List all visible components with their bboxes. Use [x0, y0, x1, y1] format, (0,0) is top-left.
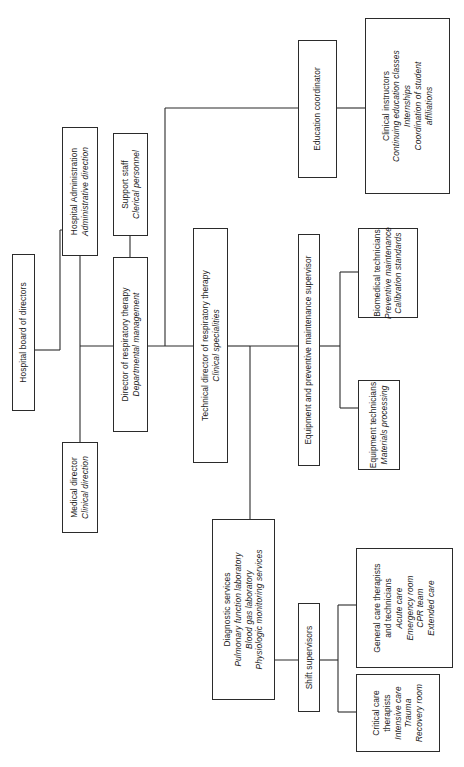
node-equipment-technicians[interactable]: Equipment technicians Materials processi… [358, 380, 400, 470]
node-label: Hospital Administration Administrative d… [69, 143, 91, 240]
node-label: Education coordinator [312, 63, 323, 155]
node-equipment-supervisor[interactable]: Equipment and preventive maintenance sup… [298, 234, 320, 466]
node-label: Technical director of respiratory therap… [200, 266, 222, 425]
node-hospital-administration[interactable]: Hospital Administration Administrative d… [62, 127, 98, 256]
node-label: Critical care therapists Intensive care … [371, 680, 425, 746]
node-support-staff[interactable]: Support staff Clerical personnel [113, 133, 148, 236]
node-label: Clinical instructors Continuing educatio… [381, 46, 435, 166]
node-medical-director[interactable]: Medical director Clinical direction [62, 442, 98, 533]
node-label: General care therapists and technicians … [372, 559, 437, 656]
node-critical-care-therapists[interactable]: Critical care therapists Intensive care … [356, 674, 440, 752]
node-label: Diagnostic services Pulmonary function l… [222, 546, 265, 674]
node-label: Medical director Clinical direction [69, 452, 91, 523]
node-general-care-therapists[interactable]: General care therapists and technicians … [356, 548, 453, 668]
node-hospital-board-of-directors[interactable]: Hospital board of directors [12, 254, 35, 411]
node-technical-director[interactable]: Technical director of respiratory therap… [193, 228, 228, 463]
node-diagnostic-services[interactable]: Diagnostic services Pulmonary function l… [212, 519, 275, 700]
node-biomedical-technicians[interactable]: Biomedical technicians Preventive mainte… [358, 228, 418, 318]
node-director-of-respiratory-therapy[interactable]: Director of respiratory therapy Departme… [113, 257, 148, 432]
node-label: Director of respiratory therapy Departme… [120, 284, 142, 406]
node-label: Shift supervisors [304, 622, 315, 694]
node-clinical-instructors[interactable]: Clinical instructors Continuing educatio… [365, 18, 450, 194]
org-chart: Hospital board of directors Hospital Adm… [0, 0, 464, 767]
node-shift-supervisors[interactable]: Shift supervisors [298, 603, 320, 712]
node-label: Biomedical technicians Preventive mainte… [372, 223, 404, 323]
node-label: Equipment and preventive maintenance sup… [304, 251, 315, 448]
node-label: Equipment technicians Materials processi… [368, 378, 390, 472]
node-label: Hospital board of directors [18, 278, 29, 386]
node-education-coordinator[interactable]: Education coordinator [298, 40, 337, 178]
node-label: Support staff Clerical personnel [120, 146, 142, 223]
